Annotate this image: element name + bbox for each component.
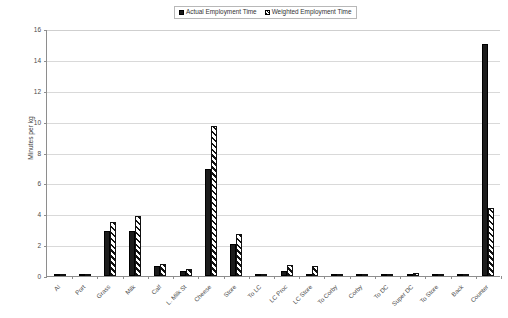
x-tick-mark: [324, 276, 325, 279]
y-axis-tick-label: 10: [25, 119, 41, 126]
x-tick-mark: [224, 276, 225, 279]
x-tick-mark: [123, 276, 124, 279]
x-tick-mark: [249, 276, 250, 279]
y-axis-tick-label: 6: [25, 180, 41, 187]
legend-swatch-solid-icon: [179, 10, 184, 15]
x-tick-mark: [476, 276, 477, 279]
x-tick-mark: [375, 276, 376, 279]
x-tick-mark: [72, 276, 73, 279]
bar: [438, 274, 444, 276]
x-tick-mark: [501, 276, 502, 279]
bar: [488, 208, 494, 276]
bar: [160, 264, 166, 276]
bar: [362, 274, 368, 276]
x-tick-mark: [400, 276, 401, 279]
x-tick-mark: [274, 276, 275, 279]
y-axis-tick-label: 16: [25, 26, 41, 33]
bar-group: [324, 30, 349, 276]
bar-group: [375, 30, 400, 276]
bar-group: [123, 30, 148, 276]
bar: [186, 269, 192, 276]
bar-group: [476, 30, 501, 276]
bar-group: [400, 30, 425, 276]
bar: [312, 266, 318, 276]
y-axis-tick-label: 8: [25, 150, 41, 157]
y-axis-tick-label: 14: [25, 57, 41, 64]
bar-group: [350, 30, 375, 276]
legend-entry-weighted: Weighted Employment Time: [265, 8, 352, 16]
y-axis-tick-label: 12: [25, 88, 41, 95]
bar: [287, 265, 293, 276]
bar-group: [97, 30, 122, 276]
legend-entry-actual: Actual Employment Time: [179, 8, 257, 16]
bar-group: [425, 30, 450, 276]
bar: [387, 274, 393, 276]
bar-group: [72, 30, 97, 276]
x-tick-mark: [198, 276, 199, 279]
bar: [60, 274, 66, 276]
y-axis-tick-label: 4: [25, 211, 41, 218]
bar: [236, 234, 242, 276]
y-tick-mark: [44, 277, 47, 278]
x-tick-mark: [451, 276, 452, 279]
bar-group: [173, 30, 198, 276]
x-tick-mark: [148, 276, 149, 279]
x-tick-mark: [299, 276, 300, 279]
x-tick-mark: [350, 276, 351, 279]
bar-group: [148, 30, 173, 276]
bar-group: [224, 30, 249, 276]
legend-swatch-hatch-icon: [265, 10, 270, 15]
y-axis-tick-label: 2: [25, 242, 41, 249]
bar: [110, 222, 116, 276]
x-tick-mark: [425, 276, 426, 279]
y-axis-tick-label: 0: [25, 273, 41, 280]
bar-group: [274, 30, 299, 276]
legend-label-actual: Actual Employment Time: [186, 8, 257, 16]
bar-group: [198, 30, 223, 276]
bar-group: [451, 30, 476, 276]
bar: [261, 274, 267, 276]
bar: [337, 274, 343, 276]
bar: [463, 274, 469, 276]
bar-chart: Actual Employment Time Weighted Employme…: [0, 0, 508, 318]
chart-legend: Actual Employment Time Weighted Employme…: [174, 6, 357, 19]
bar: [85, 274, 91, 276]
x-tick-mark: [173, 276, 174, 279]
x-tick-mark: [97, 276, 98, 279]
bar: [413, 273, 419, 276]
bar: [135, 216, 141, 276]
bar-group: [249, 30, 274, 276]
legend-label-weighted: Weighted Employment Time: [272, 8, 352, 16]
plot-area: 0246810121416: [46, 30, 500, 277]
bar: [211, 126, 217, 276]
bar-group: [299, 30, 324, 276]
bar-group: [47, 30, 72, 276]
